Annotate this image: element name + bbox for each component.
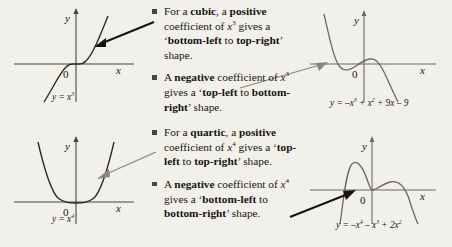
bullet-square-icon [152, 182, 157, 187]
x-axis-label: x [419, 190, 425, 202]
x-axis-label: x [115, 202, 121, 214]
bullet-square-icon [152, 75, 157, 80]
y-axis-arrowhead [73, 136, 78, 142]
origin-label: 0 [352, 68, 358, 80]
y-axis-arrowhead [370, 136, 375, 142]
bullet-square-icon [152, 130, 157, 135]
bullet-quartic-positive: For a quartic, a positive coefficient of… [152, 125, 302, 169]
graph-cubic-negative-equation: y = –x3 + x2 + 9x – 9 [330, 98, 408, 108]
bullet-cubic-positive: For a cubic, a positive coefficient of x… [152, 4, 302, 62]
bullet-quartic-negative: A negative coefficient of x4 gives a ‘bo… [152, 177, 302, 221]
figure-page: y x 0 y = x3 y x 0 y = x4 y [0, 0, 452, 247]
bullet-text: For a quartic, a positive coefficient of… [164, 126, 296, 167]
y-axis-label: y [353, 14, 359, 26]
y-axis-arrowhead [73, 8, 78, 14]
y-axis-label: y [64, 12, 70, 24]
y-axis-arrowhead [362, 10, 367, 16]
bullet-cubic-negative: A negative coefficient of x3 gives a ‘to… [152, 70, 302, 114]
cubic-negative-curve [324, 14, 398, 102]
bullet-text: For a cubic, a positive coefficient of x… [164, 5, 282, 61]
graph-cubic-positive-equation: y = x3 [52, 92, 74, 102]
y-axis-label: y [361, 140, 367, 152]
bullet-square-icon [152, 9, 157, 14]
arrow-to-cubic-positive [86, 18, 158, 52]
x-axis-label: x [115, 64, 121, 76]
bullet-text: A negative coefficient of x3 gives a ‘to… [164, 71, 290, 112]
graph-quartic-positive-equation: y = x4 [52, 214, 74, 224]
x-axis-label: x [419, 64, 425, 76]
y-axis-label: y [64, 140, 70, 152]
bullet-text: A negative coefficient of x4 gives a ‘bo… [164, 178, 289, 219]
origin-label: 0 [63, 68, 69, 80]
explanation-list: For a cubic, a positive coefficient of x… [152, 4, 302, 228]
arrow-to-quartic-positive [88, 148, 160, 184]
